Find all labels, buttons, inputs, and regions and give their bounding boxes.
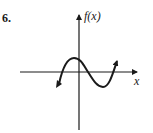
- function-graph: [0, 0, 153, 133]
